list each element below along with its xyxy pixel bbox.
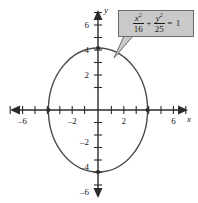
x-tick-label--6: –6 — [17, 116, 28, 126]
fraction-y-denominator: 25 — [154, 25, 165, 34]
y-axis-top-arrow — [94, 10, 103, 20]
equals-operator: = — [167, 19, 172, 28]
fraction-y-term: y2 25 — [154, 14, 165, 34]
fraction-x-numerator: x2 — [134, 14, 143, 23]
x-tick-label--2: –2 — [67, 116, 77, 126]
y-tick-label--4: –4 — [79, 162, 90, 172]
vertex-top — [96, 46, 100, 50]
y-tick-label--2: –2 — [79, 137, 89, 147]
x-tick-label-2: 2 — [122, 116, 127, 126]
y-tick-label-4: 4 — [85, 45, 90, 55]
x-axis-label: x — [186, 114, 191, 124]
vertex-bottom — [96, 170, 100, 174]
equation-right-side: 1 — [176, 19, 181, 28]
y-tick-label-2: 2 — [85, 70, 90, 80]
fraction-y-numerator: y2 — [155, 14, 164, 23]
equation-callout-box: x2 16 + y2 25 = 1 — [118, 10, 194, 37]
x-tick-label-6: 6 — [171, 116, 176, 126]
x-axis-left-arrow — [10, 106, 20, 115]
callout-pointer-tail — [114, 36, 133, 58]
y-axis — [94, 10, 103, 198]
y-tick-label-6: 6 — [85, 20, 90, 30]
y-axis-bottom-arrow — [94, 188, 103, 198]
plus-operator: + — [146, 19, 151, 28]
vertex-left — [46, 108, 50, 112]
fraction-x-denominator: 16 — [133, 25, 144, 34]
equation-expression: x2 16 + y2 25 = 1 — [132, 14, 181, 34]
y-tick-label--6: –6 — [79, 187, 90, 197]
y-axis-label: y — [103, 5, 108, 15]
fraction-x-term: x2 16 — [133, 14, 144, 34]
vertex-right — [146, 108, 150, 112]
